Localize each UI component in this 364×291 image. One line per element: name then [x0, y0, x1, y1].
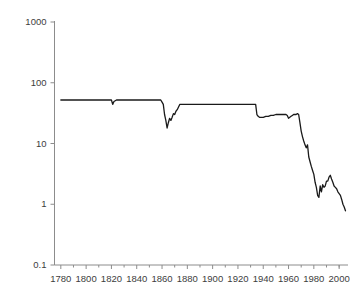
x-tick-label: 1780 [50, 274, 71, 284]
chart-data-series [61, 100, 346, 211]
y-tick-label: 100 [4, 78, 47, 88]
series-line-value [61, 100, 346, 211]
x-tick-label: 1840 [126, 274, 147, 284]
x-tick-label: 1900 [202, 274, 223, 284]
x-tick-label: 1980 [303, 274, 324, 284]
x-tick-label: 2000 [329, 274, 350, 284]
x-tick-label: 1860 [151, 274, 172, 284]
x-tick-label: 1960 [278, 274, 299, 284]
chart-plot-area [0, 0, 364, 291]
x-tick-label: 1800 [76, 274, 97, 284]
chart-container: 0.11101001000 17801800182018401860188019… [0, 0, 364, 291]
chart-tick-marks [51, 22, 340, 269]
x-tick-label: 1920 [227, 274, 248, 284]
x-tick-label: 1880 [177, 274, 198, 284]
y-tick-label: 10 [4, 139, 47, 149]
y-tick-label: 0.1 [4, 260, 47, 270]
x-tick-label: 1940 [253, 274, 274, 284]
y-tick-label: 1 [4, 200, 47, 210]
y-tick-label: 1000 [4, 17, 47, 27]
x-tick-label: 1820 [101, 274, 122, 284]
